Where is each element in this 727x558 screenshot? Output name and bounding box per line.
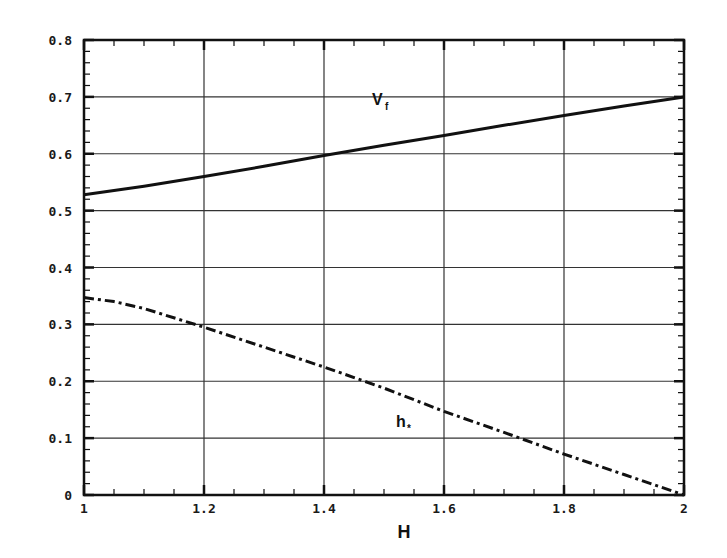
line-chart: 00.10.20.30.40.50.60.70.8 11.21.41.61.82… (0, 0, 727, 558)
x-axis-title: H (398, 522, 411, 542)
x-tick-label: 1.4 (312, 501, 336, 516)
series-line-hstar (84, 298, 684, 495)
y-tick-label: 0.4 (49, 261, 73, 276)
series-label-subscript: f (385, 101, 389, 112)
series-label-hstar: h (396, 413, 406, 430)
series-line-vf (84, 97, 684, 195)
series-label-vf: V (372, 91, 383, 108)
y-tick-label: 0 (64, 488, 72, 503)
y-tick-label: 0.8 (49, 33, 73, 48)
grid-lines (84, 40, 684, 495)
y-tick-label: 0.1 (49, 431, 73, 446)
y-tick-label: 0.5 (49, 204, 72, 219)
y-tick-label: 0.6 (49, 147, 73, 162)
x-tick-label: 1.6 (432, 501, 456, 516)
x-tick-label: 1 (80, 501, 88, 516)
x-axis-tick-labels: 11.21.41.61.82 (80, 501, 688, 516)
x-tick-label: 1.8 (552, 501, 576, 516)
y-tick-label: 0.2 (49, 374, 72, 389)
y-axis-tick-labels: 00.10.20.30.40.50.60.70.8 (49, 33, 73, 503)
data-series (84, 97, 684, 495)
y-tick-label: 0.3 (49, 317, 72, 332)
y-tick-label: 0.7 (49, 90, 72, 105)
series-label-subscript: * (407, 423, 411, 434)
x-tick-label: 1.2 (192, 501, 215, 516)
x-tick-label: 2 (680, 501, 688, 516)
